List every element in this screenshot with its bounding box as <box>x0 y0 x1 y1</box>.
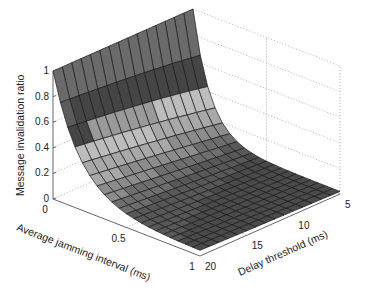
y-axis-label: Delay threshold (ms) <box>236 227 329 277</box>
z-tick-label: 0.6 <box>35 116 49 127</box>
x-tick-label: 0.5 <box>112 233 126 244</box>
z-tick-label: 0.2 <box>35 167 49 178</box>
z-tick-label: 0.4 <box>35 142 49 153</box>
x-tick-label: 1 <box>189 261 195 272</box>
z-tick-label: 0.8 <box>35 91 49 102</box>
x-tick-label: 0 <box>42 204 48 215</box>
z-tick-label: 1 <box>43 65 49 76</box>
surface-plot: 00.20.40.60.8100.515101520 Message inval… <box>0 0 376 297</box>
y-tick-label: 15 <box>252 240 264 251</box>
z-axis-label: Message invalidation ratio <box>14 74 26 196</box>
y-tick-label: 10 <box>298 220 310 231</box>
y-tick-label: 5 <box>345 199 351 210</box>
y-tick-label: 20 <box>205 261 217 272</box>
surface-mesh <box>53 9 340 250</box>
z-tick-label: 0 <box>43 193 49 204</box>
